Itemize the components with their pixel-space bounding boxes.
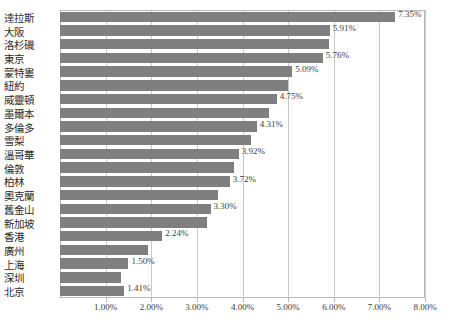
bar [60, 231, 162, 241]
bar-row [0, 271, 450, 285]
tick-label: 6.00% [312, 302, 356, 312]
bar [60, 245, 148, 255]
bar [60, 286, 124, 296]
bar [60, 176, 230, 186]
bar [60, 121, 257, 131]
bar-row [0, 216, 450, 230]
bar-row [0, 37, 450, 51]
bar-value-label: 5.76% [326, 50, 349, 60]
bar-row [0, 133, 450, 147]
bar [60, 12, 395, 22]
bar [60, 149, 239, 159]
tick-label: 2.00% [129, 302, 173, 312]
bar [60, 190, 218, 200]
bar-value-label: 3.30% [214, 201, 237, 211]
bar [60, 39, 329, 49]
bar [60, 135, 251, 145]
tick-label: 1.00% [84, 302, 128, 312]
bar-row: 5.76% [0, 51, 450, 65]
tick-label: 4.00% [221, 302, 265, 312]
bar-chart: 7.35%5.91%5.76%5.09%4.75%4.31%3.92%3.72%… [0, 0, 450, 330]
bar-row [0, 106, 450, 120]
bar-value-label: 1.41% [127, 283, 150, 293]
tick-label: 3.00% [175, 302, 219, 312]
bar [60, 94, 277, 104]
bar [60, 108, 269, 118]
bar-value-label: 5.09% [295, 64, 318, 74]
bar-value-label: 4.75% [280, 91, 303, 101]
tick-label: 7.00% [357, 302, 401, 312]
category-label: 北京 [4, 284, 60, 299]
bar-row: 1.50% [0, 257, 450, 271]
bar-row: 1.41% [0, 284, 450, 298]
bar-row: 4.75% [0, 92, 450, 106]
bar [60, 162, 234, 172]
bar [60, 80, 288, 90]
bar-row [0, 188, 450, 202]
bar-row [0, 161, 450, 175]
bar [60, 204, 211, 214]
tick-label: 8.00% [403, 302, 447, 312]
bar-value-label: 7.35% [398, 9, 421, 19]
bar-row: 7.35% [0, 10, 450, 24]
tick-label: 5.00% [266, 302, 310, 312]
bar-value-label: 1.50% [131, 256, 154, 266]
bar-row [0, 79, 450, 93]
bar [60, 53, 323, 63]
bar-value-label: 3.72% [233, 174, 256, 184]
bar-row: 2.24% [0, 229, 450, 243]
bar [60, 272, 121, 282]
bar-row: 3.72% [0, 175, 450, 189]
bar-row [0, 243, 450, 257]
bar [60, 66, 292, 76]
bar-value-label: 4.31% [260, 119, 283, 129]
bar-row: 4.31% [0, 120, 450, 134]
bar-value-label: 2.24% [165, 228, 188, 238]
bar [60, 217, 207, 227]
bar-row: 5.09% [0, 65, 450, 79]
bar-row: 5.91% [0, 24, 450, 38]
bar-row: 3.30% [0, 202, 450, 216]
bar-row: 3.92% [0, 147, 450, 161]
bar [60, 258, 128, 268]
bar-value-label: 3.92% [242, 146, 265, 156]
bar [60, 25, 330, 35]
bar-value-label: 5.91% [333, 23, 356, 33]
